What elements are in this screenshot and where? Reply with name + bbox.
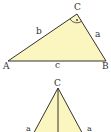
side-label-a: a: [95, 29, 101, 39]
side-label-b: b: [36, 26, 42, 36]
side-label-c: c: [55, 60, 60, 70]
triangle-diagram: C A B b a c C a a: [0, 0, 111, 132]
vertex-label-c: C: [74, 2, 81, 12]
vertex-label-b: B: [102, 61, 109, 71]
side-label-left-a: a: [26, 124, 31, 132]
right-triangle: C A B b a c: [2, 2, 109, 71]
isosceles-triangle: C a a: [26, 78, 92, 132]
right-angle-dot-icon: [76, 19, 78, 21]
side-label-right-a: a: [87, 124, 92, 132]
apex-label-c: C: [54, 78, 61, 88]
vertex-label-a: A: [2, 61, 10, 71]
right-triangle-shape: [8, 14, 106, 61]
